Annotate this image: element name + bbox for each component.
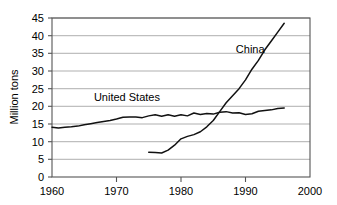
line-chart: 45 40 35 30 25 20 15 10 5 0 1960 1970 19… [0, 0, 337, 205]
y-tick-label-30: 30 [32, 65, 44, 77]
x-tick-label-1980: 1980 [169, 185, 193, 197]
chart-container: 45 40 35 30 25 20 15 10 5 0 1960 1970 19… [0, 0, 337, 205]
x-tickmarks [117, 177, 246, 182]
y-tick-label-5: 5 [38, 153, 44, 165]
y-tick-label-40: 40 [32, 30, 44, 42]
x-tick-label-1970: 1970 [104, 185, 128, 197]
y-tick-label-10: 10 [32, 136, 44, 148]
y-tick-label-20: 20 [32, 100, 44, 112]
x-tick-label-1960: 1960 [40, 185, 64, 197]
y-tick-label-0: 0 [38, 171, 44, 183]
x-tick-label-1990: 1990 [233, 185, 257, 197]
series-label-china: China [236, 43, 266, 55]
series-label-united-states: United States [94, 91, 161, 103]
y-tick-label-35: 35 [32, 47, 44, 59]
y-tick-label-15: 15 [32, 118, 44, 130]
y-tick-label-45: 45 [32, 12, 44, 24]
x-tick-label-2000: 2000 [298, 185, 322, 197]
x-tick-labels: 1960 1970 1980 1990 2000 [40, 185, 322, 197]
y-tick-label-25: 25 [32, 83, 44, 95]
y-tickmarks [48, 18, 52, 177]
y-tick-labels: 45 40 35 30 25 20 15 10 5 0 [32, 12, 44, 183]
y-axis-title: Million tons [8, 69, 20, 125]
